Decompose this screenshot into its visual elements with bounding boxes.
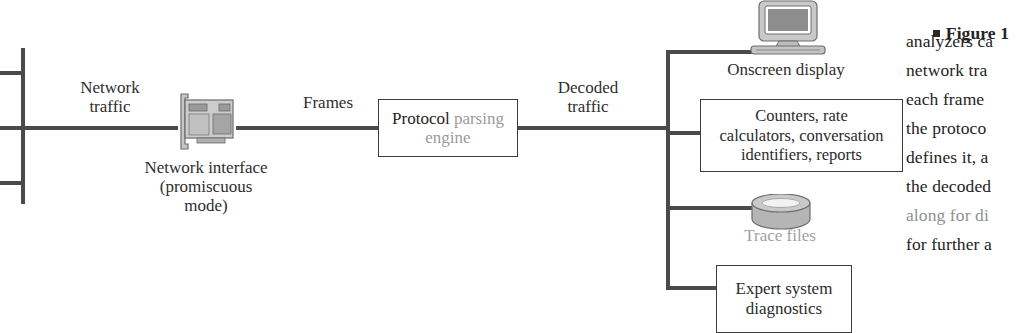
label-decoded-traffic: Decoded traffic: [520, 78, 656, 116]
caption-line-3: each frame: [906, 89, 984, 110]
caption-line-6: the decoded: [906, 176, 991, 197]
label-network-traffic: Network traffic: [46, 78, 174, 116]
counters-box: Counters, rate calculators, conversation…: [700, 99, 903, 172]
caption-line-2: network tra: [906, 60, 987, 81]
caption-line-7: along for di: [906, 205, 989, 226]
protocol-parsing-engine-box: Protocol parsing engine: [378, 99, 518, 157]
caption-line-5: defines it, a: [906, 147, 988, 168]
network-backbone-stub-middle: [0, 126, 24, 130]
wire-engine-to-outputs: [516, 126, 670, 130]
branch-to-counters: [666, 131, 704, 135]
wire-nic-to-engine: [236, 126, 380, 130]
network-backbone-stub-bottom: [0, 181, 24, 185]
expert-system-box: Expert system diagnostics: [716, 265, 852, 333]
counters-box-label: Counters, rate calculators, conversation…: [719, 106, 883, 164]
network-backbone-stub-top: [0, 71, 24, 75]
crt-monitor-icon: [746, 0, 830, 56]
branch-to-expert-system: [666, 286, 720, 290]
output-distribution-trunk: [666, 50, 670, 290]
caption-line-1: analyzers ca: [906, 31, 993, 52]
label-network-interface: Network interface (promiscuous mode): [120, 158, 292, 215]
network-interface-card-icon: [170, 92, 240, 154]
label-onscreen-display: Onscreen display: [676, 60, 896, 79]
caption-line-4: the protoco: [906, 118, 986, 139]
wire-network-to-nic: [22, 126, 178, 130]
expert-system-label: Expert system diagnostics: [736, 279, 833, 318]
engine-label-strong: Protocol: [392, 109, 450, 128]
figure-caption-column: Figure 1 analyzers ca network tra each f…: [906, 0, 1021, 321]
label-trace-files: Trace files: [700, 226, 860, 245]
label-frames: Frames: [280, 93, 376, 112]
caption-line-8: for further a: [906, 234, 992, 255]
